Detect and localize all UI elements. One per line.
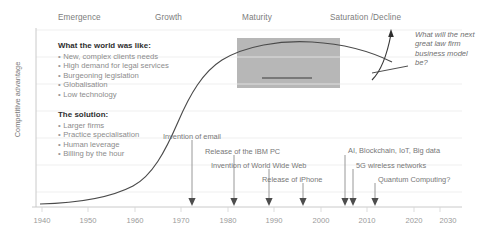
list-item: Low technology [58,90,169,100]
x-tick-1960: 1960 [127,216,144,225]
list-item: Globalisation [58,80,169,90]
x-tick-1940: 1940 [34,216,51,225]
x-tick-1970: 1970 [173,216,190,225]
event-label-iphone: Release of iPhone [262,175,322,184]
list-item: Billing by the hour [58,149,139,159]
list-item: New, complex clients needs [58,52,169,62]
question-leader-line [372,66,408,73]
event-label-5g: 5G wireless networks [356,161,426,170]
world-was-like-list: New, complex clients needs High demand f… [58,52,169,100]
world-was-like-block: What the world was like: New, complex cl… [58,41,169,99]
event-label-www: Invention of World Wide Web [211,161,306,170]
x-tick-2030: 2030 [440,216,457,225]
solution-list: Larger firms Practice specialisation Hum… [58,121,139,159]
x-tick-2010: 2010 [359,216,376,225]
event-label-email: Invention of email [163,132,221,141]
question-annotation: What will the next great law firm busine… [415,30,475,68]
x-tick-1980: 1980 [220,216,237,225]
x-axis-ticks [42,207,440,212]
x-tick-1950: 1950 [80,216,97,225]
x-tick-1990: 1990 [266,216,283,225]
list-item: Larger firms [58,121,139,131]
solution-heading: The solution: [58,110,139,119]
list-item: Human leverage [58,140,139,150]
list-item: High demand for legal services [58,61,169,71]
list-item: Burgeoning legislation [58,71,169,81]
event-label-quantum: Quantum Computing? [378,175,450,184]
world-was-like-heading: What the world was like: [58,41,169,50]
event-arrowheads [188,198,378,206]
solution-block: The solution: Larger firms Practice spec… [58,110,139,159]
scurve-chart: Emergence Growth Maturity Saturation /De… [0,0,477,247]
event-label-ibm-pc: Release of the IBM PC [205,147,280,156]
list-item: Practice specialisation [58,130,139,140]
event-label-ai: AI, Blockchain, IoT, Big data [348,146,440,155]
x-tick-2020: 2020 [406,216,423,225]
x-tick-2000: 2000 [313,216,330,225]
